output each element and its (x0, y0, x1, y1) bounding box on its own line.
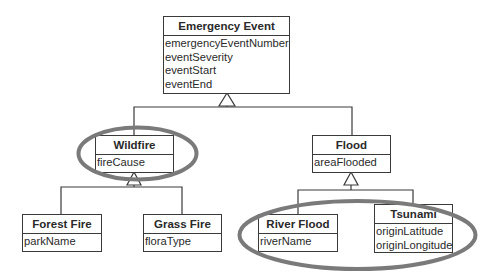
class-wildfire: Wildfire fireCause (95, 135, 174, 173)
class-emergency-event: Emergency Event emergencyEventNumber eve… (163, 16, 290, 94)
attribute-list: floraType (144, 234, 221, 250)
attribute: emergencyEventNumber (165, 37, 289, 51)
attribute-list: emergencyEventNumber eventSeverity event… (164, 36, 289, 92)
attribute-list: originLatitude originLongitude (375, 224, 452, 253)
attribute: parkName (24, 235, 101, 249)
attribute: riverName (260, 235, 337, 249)
class-name: Forest Fire (23, 215, 101, 234)
attribute: originLongitude (376, 239, 452, 253)
class-name: Grass Fire (144, 215, 221, 234)
attribute: floraType (145, 235, 221, 249)
class-name: Wildfire (96, 136, 173, 155)
attribute: eventStart (165, 64, 289, 78)
attribute-list: areaFlooded (313, 155, 390, 171)
attribute-list: parkName (23, 234, 101, 250)
attribute-list: fireCause (96, 155, 173, 171)
class-river-flood: River Flood riverName (258, 214, 338, 252)
class-name: Flood (313, 136, 390, 155)
attribute: fireCause (97, 156, 173, 170)
class-grass-fire: Grass Fire floraType (143, 214, 222, 252)
class-name: River Flood (259, 215, 337, 234)
attribute: eventEnd (165, 78, 289, 92)
class-name: Emergency Event (164, 17, 289, 36)
class-name: Tsunami (375, 205, 452, 224)
attribute: eventSeverity (165, 51, 289, 65)
generalization-arrow-flood (344, 172, 358, 185)
class-flood: Flood areaFlooded (312, 135, 391, 173)
uml-diagram: Emergency Event emergencyEventNumber eve… (0, 0, 499, 280)
class-tsunami: Tsunami originLatitude originLongitude (374, 204, 453, 253)
attribute-list: riverName (259, 234, 337, 250)
generalization-arrow-wildfire (127, 172, 141, 185)
attribute: originLatitude (376, 225, 452, 239)
generalization-arrow-emergency (219, 93, 235, 106)
class-forest-fire: Forest Fire parkName (22, 214, 102, 252)
attribute: areaFlooded (314, 156, 390, 170)
